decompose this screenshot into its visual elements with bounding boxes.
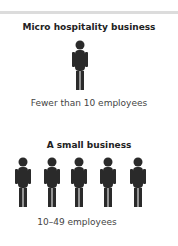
micro-business-caption: Fewer than 10 employees	[0, 98, 178, 108]
person-icon	[129, 157, 147, 207]
small-business-heading: A small business	[0, 140, 178, 150]
micro-business-heading: Micro hospitality business	[0, 22, 178, 32]
small-business-caption: 10–49 employees	[0, 217, 166, 227]
top-divider	[0, 11, 178, 14]
person-icon	[14, 157, 32, 207]
person-icon	[99, 157, 117, 207]
person-icon	[43, 157, 61, 207]
person-icon	[71, 40, 89, 90]
person-icon	[70, 157, 88, 207]
